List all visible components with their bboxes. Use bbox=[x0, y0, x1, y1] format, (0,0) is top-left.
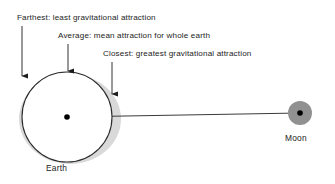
earth-center-dot bbox=[64, 114, 70, 120]
callout-label-farthest: Farthest: least gravitational attraction bbox=[17, 13, 156, 23]
tidal-bulge-diagram: Farthest: least gravitational attraction… bbox=[0, 0, 335, 184]
earth-label: Earth bbox=[46, 163, 67, 173]
moon-label: Moon bbox=[285, 133, 307, 143]
callout-label-closest: Closest: greatest gravitational attracti… bbox=[103, 49, 251, 59]
moon-center-dot bbox=[297, 110, 303, 116]
diagram-canvas bbox=[0, 0, 335, 184]
callout-label-average: Average: mean attraction for whole earth bbox=[58, 31, 210, 41]
